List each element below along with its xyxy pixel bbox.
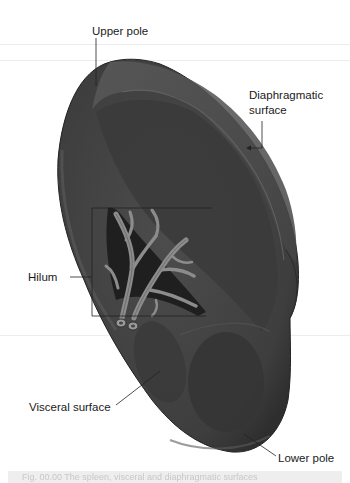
- renal-impression: [188, 332, 264, 432]
- label-diaphragmatic-surface-line2: surface: [249, 103, 287, 117]
- label-hilum: Hilum: [28, 270, 57, 284]
- label-upper-pole: Upper pole: [92, 24, 148, 38]
- figure-caption-strip: Fig. 00.00 The spleen, visceral and diap…: [8, 471, 342, 483]
- label-visceral-surface: Visceral surface: [29, 400, 111, 414]
- figure-caption: Fig. 00.00 The spleen, visceral and diap…: [8, 471, 342, 483]
- label-lower-pole: Lower pole: [278, 451, 334, 465]
- label-diaphragmatic-surface-line1: Diaphragmatic: [249, 88, 323, 102]
